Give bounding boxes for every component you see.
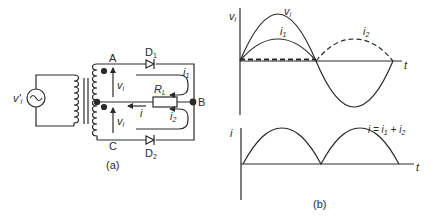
current-i1-label: i1 (183, 66, 189, 79)
sum-label: i = i1 + i2 (368, 124, 405, 136)
caption-a: (a) (106, 159, 119, 171)
circuit-diagram (27, 59, 196, 145)
current-i2-label: i2 (170, 110, 176, 123)
node-b-dot (190, 99, 196, 105)
ac-source-icon (27, 89, 45, 107)
diode-d2-label: D2 (145, 147, 157, 160)
polarity-dot-top (102, 69, 107, 74)
curve-i1 (240, 39, 316, 61)
waveform-bottom-chart (241, 128, 414, 200)
node-b-label: B (198, 96, 205, 108)
curve-i2 (316, 39, 393, 61)
diode-d1-icon (146, 59, 154, 69)
primary-coil-icon (74, 75, 79, 126)
figure-canvas: v'i A C B D1 D2 vi vi RL i1 i2 i (a) vi … (0, 0, 434, 217)
waveform-bottom-labels: i t i = i1 + i2 (b) (230, 124, 420, 210)
curve-i1-label: i1 (280, 25, 286, 38)
transformer-core-icon (84, 78, 88, 124)
caption-b: (b) (313, 198, 326, 210)
node-c-label: C (109, 140, 117, 152)
curve-vi-label: vi (284, 5, 292, 18)
curve-i2-label: i2 (363, 25, 369, 38)
voltage-top-label: vi (117, 79, 125, 92)
bottom-ylabel: i (230, 127, 233, 139)
current-i2-arrow-icon (136, 109, 188, 129)
node-a-label: A (109, 52, 117, 64)
top-ylabel: vi (229, 10, 237, 23)
primary-wire (36, 75, 74, 126)
polarity-dot-bottom (102, 105, 107, 110)
resistor-label: RL (154, 83, 166, 96)
resistor-rl-icon (153, 97, 177, 107)
diode-d1-label: D1 (145, 46, 157, 59)
bottom-xlabel: t (416, 161, 420, 173)
top-xlabel: t (404, 59, 408, 71)
waveform-top-chart (240, 8, 402, 115)
current-i-label: i (140, 107, 143, 119)
source-label: v'i (13, 92, 23, 105)
voltage-bottom-label: vi (117, 115, 125, 128)
diode-d2-icon (146, 135, 154, 145)
